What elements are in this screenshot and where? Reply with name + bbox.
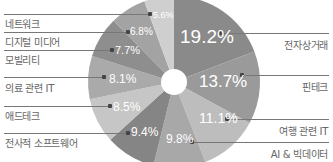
pct-mobility: 7.7% <box>115 44 140 56</box>
pct-ecommerce: 19.2% <box>180 26 234 48</box>
leader-line-enterprise-sw <box>4 133 128 134</box>
label-ecommerce: 전자상거래 <box>284 37 328 52</box>
pct-travel-it: 11.1% <box>199 110 238 126</box>
label-mobility: 모빌리티 <box>5 52 40 67</box>
label-fintech: 핀테크 <box>302 79 328 94</box>
leader-dot-enterprise-sw <box>126 131 130 135</box>
label-health-it: 의료 관련 IT <box>5 80 54 95</box>
label-digital-media: 디지털 미디어 <box>5 34 60 49</box>
pct-digital-media: 6.8% <box>130 26 153 37</box>
label-travel-it: 여행 관련 IT <box>279 123 328 138</box>
pct-adtech: 8.5% <box>113 100 140 114</box>
pct-enterprise-sw: 9.4% <box>131 125 158 139</box>
label-adtech: 애드테크 <box>5 108 40 123</box>
leader-dot-adtech <box>108 104 112 108</box>
leader-dot-health-it <box>102 75 106 79</box>
pct-network: 5.6% <box>153 10 174 20</box>
leader-line-digital-media <box>4 32 128 33</box>
label-ai-bigdata: AI & 빅데이터 <box>271 146 328 161</box>
leader-dot-mobility <box>110 48 114 52</box>
leader-dot-network <box>148 12 152 16</box>
pct-health-it: 8.1% <box>109 72 136 86</box>
label-network: 네트워크 <box>5 16 40 31</box>
leader-line-mobility <box>4 50 112 51</box>
leader-line-ecommerce <box>222 33 329 34</box>
leader-line-travel-it <box>229 119 329 120</box>
leader-line-adtech <box>4 106 110 107</box>
leader-line-network <box>4 14 150 15</box>
donut-hole <box>161 69 187 95</box>
leader-line-ai-bigdata <box>194 142 329 143</box>
leader-line-health-it <box>4 77 104 78</box>
leader-line-fintech <box>244 75 329 76</box>
pct-fintech: 13.7% <box>199 72 247 92</box>
pct-ai-bigdata: 9.8% <box>166 132 193 146</box>
label-enterprise-sw: 전사적 소프트웨어 <box>5 135 77 150</box>
